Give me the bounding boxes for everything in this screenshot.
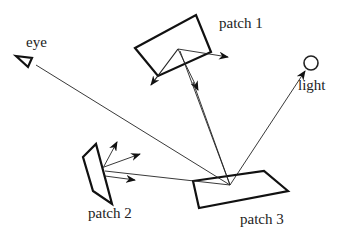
patch-1: patch 1 — [135, 15, 263, 90]
patch-2-label: patch 2 — [88, 205, 132, 221]
patch-1-label: patch 1 — [219, 15, 263, 31]
patch-3-label: patch 3 — [240, 211, 284, 227]
patch-2-shape — [83, 144, 112, 204]
edge-patch3-to-patch1-b — [193, 82, 230, 185]
patch-2: patch 2 — [83, 142, 140, 221]
patch-3-shape — [193, 171, 288, 208]
patch-1-ray-left — [151, 49, 178, 85]
light-label: light — [298, 77, 326, 93]
edge-patch3-to-light — [230, 71, 305, 185]
patch-1-ray-down — [178, 49, 198, 90]
eye-node: eye — [16, 34, 47, 67]
eye-triangle-icon — [16, 56, 32, 67]
diagram-canvas: eye light patch 1 patch 2 patch 3 — [0, 0, 354, 234]
patch-3: patch 3 — [193, 171, 288, 227]
light-circle-icon — [304, 56, 318, 70]
edge-patch3-to-eye — [36, 65, 230, 185]
patch-2-ray-low — [105, 176, 135, 180]
patch-2-ray-up — [103, 142, 117, 168]
patch-1-shape — [135, 15, 211, 76]
eye-label: eye — [26, 34, 47, 50]
